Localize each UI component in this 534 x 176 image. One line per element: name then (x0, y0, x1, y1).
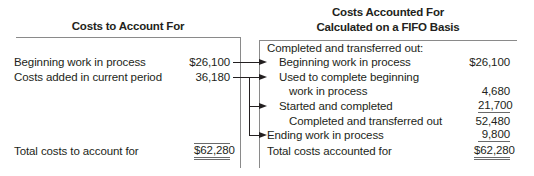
arrow-right-icon (259, 74, 267, 80)
right-row-beginning-wip-label: Beginning work in process (279, 55, 411, 69)
left-row-costs-added-label: Costs added in current period (14, 70, 162, 84)
right-row-started-completed-label: Started and completed (279, 99, 393, 113)
right-total-label: Total costs accounted for (267, 144, 392, 158)
left-panel-header: Costs to Account For (16, 20, 240, 32)
right-row-ending-wip-label: Ending work in process (267, 128, 384, 142)
right-section-label: Completed and transferred out: (267, 41, 423, 55)
left-panel-right-border (240, 37, 241, 168)
right-row-beginning-wip-value: $26,100 (430, 55, 510, 69)
connector-line-2 (233, 77, 260, 78)
right-panel-header-line1: Costs Accounted For (259, 6, 517, 18)
right-row-completed-transferred-label: Completed and transferred out (289, 114, 442, 128)
arrow-right-icon (259, 59, 267, 65)
right-row-ending-wip-value: 9,800 (478, 128, 510, 142)
right-total-value: $62,280 (474, 144, 510, 160)
left-row-costs-added-value: 36,180 (150, 70, 230, 84)
arrow-right-icon (259, 132, 267, 138)
arrow-right-icon (259, 103, 267, 109)
left-header-rule (16, 37, 241, 38)
right-panel-header-line2: Calculated on a FIFO Basis (259, 21, 517, 33)
connector-line-1 (233, 62, 260, 63)
left-total-label: Total costs to account for (14, 144, 139, 158)
right-row-used-to-complete-label: Used to complete beginning (279, 70, 419, 84)
right-row-started-completed-value: 21,700 (478, 99, 510, 113)
right-row-wip-value: 4,680 (430, 84, 510, 98)
right-row-wip-label: work in process (289, 84, 367, 98)
left-total-value: $62,280 (194, 143, 230, 160)
left-row-beginning-wip-label: Beginning work in process (14, 55, 146, 69)
right-row-completed-transferred-value: 52,480 (430, 114, 510, 128)
left-row-beginning-wip-value: $26,100 (150, 55, 230, 69)
